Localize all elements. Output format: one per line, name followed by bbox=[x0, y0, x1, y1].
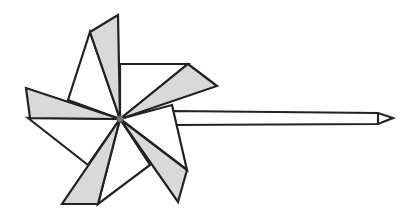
pinwheel-stick bbox=[172, 111, 393, 125]
center-pin bbox=[117, 116, 123, 122]
pinwheel-diagram bbox=[0, 0, 415, 220]
